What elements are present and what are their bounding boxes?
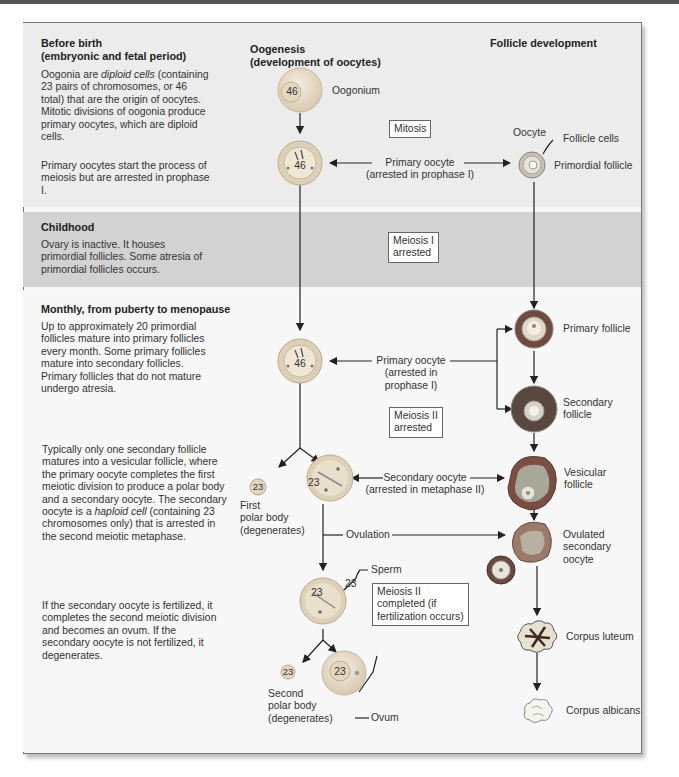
secondary-oocyte-sub: (arrested in metaphase II) [360,484,490,496]
ovulated-oocyte-label: Ovulated secondary oocyte [563,529,611,566]
primary-oocyte-sub-2a: (arrested in [370,367,452,379]
second-polar-line2: polar body [268,700,333,712]
vesicular-follicle [508,457,556,511]
ovulated-line2: secondary [563,541,611,553]
secondary-follicle-line2: follicle [563,409,613,421]
oogonium-label: Oogonium [332,85,380,97]
ovulation-label: Ovulation [346,529,390,541]
primary-oocyte-title-1: Primary oocyte [383,157,456,169]
first-polar-line2: polar body [240,512,305,524]
primary-oocyte-count-2: 46 [290,358,310,370]
primary-oocyte-sub-2b: prophase I) [370,380,452,392]
meiosis-ii-completed-line1: Meiosis II [377,586,464,598]
secondary-follicle-line1: Secondary [563,397,613,409]
primary-follicle-label: Primary follicle [563,323,631,335]
second-polar-line1: Second [268,688,333,700]
fertilized-count: 23 [311,587,323,599]
ovulated-line3: oocyte [563,554,611,566]
diagram-graphics [0,0,679,777]
first-polar-line1: First [240,500,305,512]
primary-oocyte-title-2: Primary oocyte [370,355,452,367]
primordial-follicle-label: Primordial follicle [554,160,633,172]
primary-oocyte-count-1: 46 [290,160,310,172]
primary-oocyte-label-2: Primary oocyte (arrested in prophase I) [370,355,452,392]
meiosis-ii-completed-line2: completed (if [377,598,464,610]
meiosis-ii-completed-box: Meiosis II completed (if fertilization o… [372,583,469,626]
ovulated-follicle [487,522,551,584]
ovum-label: Ovum [371,712,399,724]
mitosis-box: Mitosis [389,120,431,138]
meiosis-ii-line1: Meiosis II [394,410,438,422]
fertilized-oocyte-cell [300,578,346,624]
meiosis-ii-line2: arrested [394,422,438,434]
ovulated-line1: Ovulated [563,529,611,541]
meiosis-i-arrested-box: Meiosis I arrested [388,232,439,263]
second-polar-label: Second polar body (degenerates) [268,688,333,725]
first-polar-line3: (degenerates) [240,525,305,537]
secondary-follicle [511,386,557,432]
corpus-luteum-label: Corpus luteum [566,631,634,643]
follicle-cells-label: Follicle cells [563,133,619,145]
first-polar-count: 23 [248,481,268,493]
primary-follicle [515,310,553,348]
corpus-albicans-label: Corpus albicans [566,705,641,717]
primary-oocyte-label-1: Primary oocyte (arrested in prophase I) [355,157,485,182]
sperm-label: Sperm [371,564,402,576]
corpus-luteum [518,621,557,653]
second-polar-line3: (degenerates) [268,713,333,725]
vesicular-follicle-line1: Vesicular [564,467,606,479]
vesicular-follicle-line2: follicle [564,479,606,491]
secondary-oocyte-count: 23 [308,477,320,489]
secondary-follicle-label: Secondary follicle [563,397,613,422]
corpus-albicans [524,699,552,723]
secondary-oocyte-title: Secondary oocyte [360,472,490,484]
sperm-count: 23 [345,578,357,590]
second-polar-count: 23 [278,666,298,678]
oogonium-count: 46 [282,86,302,98]
primary-oocyte-sub-1: (arrested in prophase I) [355,169,485,181]
primordial-follicle [519,152,545,178]
meiosis-ii-completed-line3: fertilization occurs) [377,611,464,623]
oocyte-label: Oocyte [513,127,546,139]
vesicular-follicle-label: Vesicular follicle [564,467,606,492]
meiosis-i-line1: Meiosis I [393,235,434,247]
meiosis-ii-arrested-box: Meiosis II arrested [389,407,443,438]
meiosis-i-line2: arrested [393,247,434,259]
ovum-count: 23 [330,666,350,678]
first-polar-label: First polar body (degenerates) [240,500,305,537]
secondary-oocyte-label: Secondary oocyte (arrested in metaphase … [360,472,490,497]
